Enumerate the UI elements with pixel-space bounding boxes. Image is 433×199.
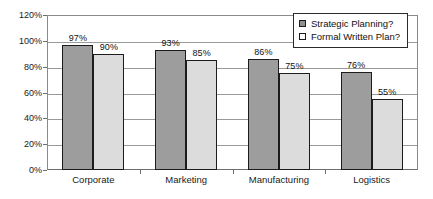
- bar-value-label: 55%: [378, 88, 396, 97]
- y-axis-tick-label: 100%: [0, 36, 42, 45]
- x-axis-category-label: Corporate: [47, 174, 140, 185]
- x-axis-category-label: Marketing: [140, 174, 233, 185]
- bar-column: 97%: [62, 15, 93, 170]
- bar-column: 90%: [93, 15, 124, 170]
- bar-pair: 97%90%: [47, 15, 140, 170]
- bar-value-label: 93%: [162, 39, 180, 48]
- x-axis-labels: CorporateMarketingManufacturingLogistics: [47, 174, 418, 185]
- bar-chart: 0%20%40%60%80%100%120% 97%90%93%85%86%75…: [0, 0, 433, 199]
- bar[interactable]: [279, 73, 310, 170]
- y-axis-tick-label: 60%: [0, 88, 42, 97]
- bar-value-label: 86%: [254, 48, 272, 57]
- y-axis-tick-label: 80%: [0, 62, 42, 71]
- legend-label: Formal Written Plan?: [311, 32, 400, 42]
- bar-group: 93%85%: [140, 15, 233, 170]
- bar[interactable]: [62, 45, 93, 170]
- y-axis-tick-label: 20%: [0, 140, 42, 149]
- x-axis-category-label: Manufacturing: [233, 174, 326, 185]
- legend-item-strategic-planning[interactable]: Strategic Planning?: [299, 17, 400, 30]
- bar-value-label: 76%: [347, 61, 365, 70]
- legend-label: Strategic Planning?: [311, 19, 393, 29]
- bar[interactable]: [372, 99, 403, 170]
- bar[interactable]: [155, 50, 186, 170]
- legend: Strategic Planning? Formal Written Plan?: [293, 13, 408, 48]
- bar-value-label: 85%: [193, 49, 211, 58]
- bar-value-label: 97%: [69, 34, 87, 43]
- bar-column: 85%: [186, 15, 217, 170]
- y-axis-tick-mark: [43, 170, 47, 171]
- bar[interactable]: [341, 72, 372, 170]
- bar-column: 93%: [155, 15, 186, 170]
- bar-value-label: 75%: [285, 62, 303, 71]
- bar-column: 86%: [248, 15, 279, 170]
- legend-swatch-icon: [299, 33, 306, 40]
- y-axis-tick-label: 120%: [0, 11, 42, 20]
- x-axis-category-label: Logistics: [325, 174, 418, 185]
- y-axis-tick-label: 40%: [0, 114, 42, 123]
- legend-swatch-icon: [299, 20, 306, 27]
- bar-value-label: 90%: [100, 43, 118, 52]
- bar[interactable]: [248, 59, 279, 170]
- bar-group: 97%90%: [47, 15, 140, 170]
- y-axis-tick-label: 0%: [0, 166, 42, 175]
- bar[interactable]: [93, 54, 124, 170]
- legend-item-formal-written-plan[interactable]: Formal Written Plan?: [299, 30, 400, 43]
- bar-pair: 93%85%: [140, 15, 233, 170]
- bar[interactable]: [186, 60, 217, 170]
